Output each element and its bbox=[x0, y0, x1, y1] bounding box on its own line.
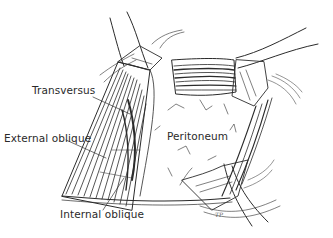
artist-signature: TP bbox=[215, 211, 223, 218]
anatomy-illustration: Transversus External oblique Internal ob… bbox=[0, 0, 333, 238]
label-external-oblique: External oblique bbox=[4, 133, 91, 144]
leader-lines bbox=[66, 97, 130, 210]
muscle-layers-right bbox=[222, 98, 274, 196]
label-internal-oblique: Internal oblique bbox=[60, 209, 144, 220]
retractor-top-right bbox=[232, 28, 318, 106]
muscle-band-top bbox=[152, 30, 236, 95]
retractor-top-left bbox=[100, 12, 162, 82]
leader-transversus bbox=[93, 97, 130, 114]
line-art bbox=[0, 0, 333, 238]
leader-internal-oblique bbox=[103, 178, 124, 210]
label-peritoneum: Peritoneum bbox=[167, 131, 228, 142]
label-transversus: Transversus bbox=[32, 85, 95, 96]
